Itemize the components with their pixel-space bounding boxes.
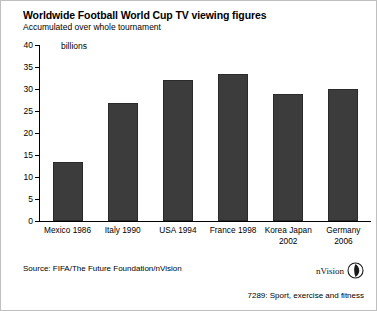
y-axis-tick xyxy=(35,221,39,222)
plot-area: billions 0510152025303540 xyxy=(39,45,371,222)
bar-slot xyxy=(150,45,205,221)
y-axis-tick xyxy=(35,89,39,90)
y-axis-tick-label: 30 xyxy=(24,85,33,94)
x-axis-category-label: USA 1994 xyxy=(150,225,205,236)
bar xyxy=(108,103,138,221)
y-axis-tick xyxy=(35,67,39,68)
y-axis-tick-label: 15 xyxy=(24,151,33,160)
y-axis-tick-label: 20 xyxy=(24,129,33,138)
x-axis-category-labels: Mexico 1986Italy 1990USA 1994France 1998… xyxy=(40,225,371,251)
chart-subtitle: Accumulated over whole tournament xyxy=(23,22,161,32)
x-axis-category-label: France 1998 xyxy=(206,225,261,236)
y-axis-tick-label: 35 xyxy=(24,63,33,72)
y-axis-tick xyxy=(35,111,39,112)
x-axis-category-label: Korea Japan2002 xyxy=(261,225,316,247)
bar xyxy=(328,89,358,221)
y-axis-tick-label: 25 xyxy=(24,107,33,116)
x-axis-category-label: Italy 1990 xyxy=(95,225,150,236)
x-axis-line xyxy=(39,221,371,222)
bar-series xyxy=(40,45,371,221)
y-axis-tick-label: 40 xyxy=(24,41,33,50)
page-title: Worldwide Football World Cup TV viewing … xyxy=(23,9,266,21)
bar-slot xyxy=(40,45,95,221)
y-axis-tick-label: 0 xyxy=(28,217,33,226)
nvision-leaf-circle-icon xyxy=(347,262,364,279)
nvision-wordmark: nVision xyxy=(316,266,344,276)
x-axis-category-label: Germany2006 xyxy=(316,225,371,247)
bar-slot xyxy=(261,45,316,221)
report-code: 7289: Sport, exercise and fitness xyxy=(247,291,364,300)
bar xyxy=(163,80,193,221)
y-axis-tick-label: 10 xyxy=(24,173,33,182)
bar-slot xyxy=(316,45,371,221)
bar-slot xyxy=(206,45,261,221)
source-note: Source: FIFA/The Future Foundation/nVisi… xyxy=(23,264,182,273)
bar-slot xyxy=(95,45,150,221)
bar xyxy=(53,162,83,221)
y-axis-tick xyxy=(35,199,39,200)
chart-page: Worldwide Football World Cup TV viewing … xyxy=(0,0,377,311)
y-axis-tick xyxy=(35,155,39,156)
y-axis-tick xyxy=(35,133,39,134)
x-axis-category-label: Mexico 1986 xyxy=(40,225,95,236)
y-axis-tick xyxy=(35,177,39,178)
bar xyxy=(273,94,303,221)
nvision-logo: nVision xyxy=(316,262,364,279)
bar xyxy=(218,74,248,221)
y-axis-tick-label: 5 xyxy=(28,195,33,204)
y-axis-tick xyxy=(35,45,39,46)
